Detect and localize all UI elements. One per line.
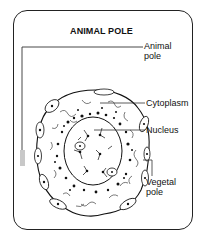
shading-left (20, 150, 25, 166)
label-cytoplasm: Cytoplasm (146, 98, 189, 108)
cell-illustration (0, 0, 203, 242)
label-vegetal-pole: Vegetal pole (146, 177, 176, 197)
label-animal-pole: Animal pole (144, 41, 172, 61)
label-nucleus: Nucleus (146, 125, 179, 135)
